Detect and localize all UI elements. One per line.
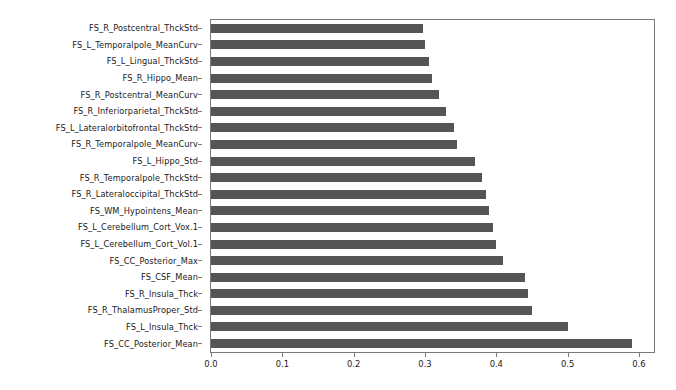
bar (211, 306, 532, 315)
bar-row (211, 236, 655, 253)
y-tick-label-row: FS_R_Postcentral_MeanCurv (0, 86, 204, 103)
bar (211, 57, 429, 66)
y-tick-label: FS_L_Insula_Thck (126, 322, 198, 332)
y-tick-label: FS_L_Lingual_ThckStd (107, 56, 198, 66)
y-tick-label: FS_R_Postcentral_ThckStd (89, 23, 198, 33)
bar-row (211, 37, 655, 54)
bar-row (211, 103, 655, 120)
y-tick-label-row: FS_R_Temporalpole_MeanCurv (0, 136, 204, 153)
bar (211, 90, 439, 99)
y-axis-tick-labels: FS_R_Postcentral_ThckStdFS_L_Temporalpol… (0, 20, 204, 352)
y-tick-mark (198, 194, 202, 195)
bar-chart-figure: FS_R_Postcentral_ThckStdFS_L_Temporalpol… (0, 0, 676, 390)
y-tick-mark (198, 343, 202, 344)
bar-row (211, 86, 655, 103)
x-tick-label: 0.0 (204, 359, 217, 369)
bar (211, 74, 432, 83)
bar-row (211, 70, 655, 87)
bar (211, 256, 503, 265)
y-tick-mark (198, 293, 202, 294)
y-tick-mark (198, 210, 202, 211)
y-tick-mark (198, 326, 202, 327)
bar-row (211, 252, 655, 269)
y-tick-label-row: FS_L_Lateralorbitofrontal_ThckStd (0, 120, 204, 137)
bar-row (211, 335, 655, 352)
y-tick-label-row: FS_R_Postcentral_ThckStd (0, 20, 204, 37)
bar (211, 123, 454, 132)
x-tick-mark (282, 353, 283, 357)
bar-row (211, 269, 655, 286)
y-tick-label-row: FS_R_ThalamusProper_Std (0, 302, 204, 319)
y-tick-mark (198, 28, 202, 29)
y-tick-mark (198, 61, 202, 62)
y-tick-label-row: FS_R_Hippo_Mean (0, 70, 204, 87)
y-tick-label-row: FS_L_Temporalpole_MeanCurv (0, 37, 204, 54)
y-tick-label-row: FS_R_Lateraloccipital_ThckStd (0, 186, 204, 203)
bar-row (211, 53, 655, 70)
y-tick-label-row: FS_L_Hippo_Std (0, 153, 204, 170)
y-tick-mark (198, 161, 202, 162)
y-tick-mark (198, 94, 202, 95)
bar (211, 206, 489, 215)
y-tick-label: FS_L_Cerebellum_Cort_Vox.1 (78, 222, 198, 232)
bar (211, 322, 568, 331)
y-tick-mark (198, 277, 202, 278)
x-tick-label: 0.2 (347, 359, 360, 369)
x-tick-mark (425, 353, 426, 357)
bar (211, 173, 482, 182)
y-tick-label: FS_R_Inferiorparietal_ThckStd (73, 106, 198, 116)
y-tick-label-row: FS_L_Lingual_ThckStd (0, 53, 204, 70)
bar-row (211, 319, 655, 336)
y-tick-mark (198, 127, 202, 128)
bar-row (211, 153, 655, 170)
x-tick-label: 0.1 (276, 359, 289, 369)
bar-row (211, 302, 655, 319)
bar (211, 289, 528, 298)
y-tick-label-row: FS_WM_Hypointens_Mean (0, 203, 204, 220)
y-tick-label: FS_R_Postcentral_MeanCurv (81, 90, 198, 100)
y-tick-label-row: FS_CSF_Mean (0, 269, 204, 286)
bar-row (211, 203, 655, 220)
y-tick-mark (198, 78, 202, 79)
bar-row (211, 136, 655, 153)
y-tick-label-row: FS_L_Insula_Thck (0, 319, 204, 336)
x-axis-ticks: 0.00.10.20.30.40.50.6 (210, 353, 655, 383)
bar-row (211, 169, 655, 186)
y-tick-label: FS_L_Temporalpole_MeanCurv (72, 40, 198, 50)
bar (211, 40, 425, 49)
bar (211, 273, 525, 282)
y-tick-label-row: FS_R_Insula_Thck (0, 286, 204, 303)
bar (211, 240, 496, 249)
bar (211, 190, 486, 199)
bar-series (211, 20, 655, 352)
y-tick-label: FS_L_Cerebellum_Cort_Vol.1 (80, 239, 198, 249)
x-tick-mark (496, 353, 497, 357)
x-tick-mark (211, 353, 212, 357)
bar (211, 339, 632, 348)
bar-row (211, 219, 655, 236)
y-tick-label-row: FS_R_Inferiorparietal_ThckStd (0, 103, 204, 120)
y-tick-label-row: FS_R_Temporalpole_ThckStd (0, 169, 204, 186)
y-tick-label: FS_R_ThalamusProper_Std (88, 305, 198, 315)
y-tick-label: FS_CC_Posterior_Max (110, 256, 199, 266)
y-tick-label-row: FS_L_Cerebellum_Cort_Vox.1 (0, 219, 204, 236)
y-tick-label: FS_R_Temporalpole_ThckStd (80, 173, 198, 183)
x-tick-label: 0.4 (490, 359, 503, 369)
x-tick-mark (568, 353, 569, 357)
y-tick-label-row: FS_CC_Posterior_Max (0, 252, 204, 269)
bar-row (211, 186, 655, 203)
x-tick-label: 0.5 (561, 359, 574, 369)
y-tick-mark (198, 111, 202, 112)
y-tick-label: FS_WM_Hypointens_Mean (90, 206, 198, 216)
y-tick-mark (198, 227, 202, 228)
x-tick-mark (354, 353, 355, 357)
y-tick-label: FS_R_Hippo_Mean (123, 73, 198, 83)
y-tick-label: FS_L_Hippo_Std (133, 156, 198, 166)
x-tick-label: 0.6 (632, 359, 645, 369)
y-tick-label: FS_R_Temporalpole_MeanCurv (71, 139, 198, 149)
bar (211, 107, 446, 116)
x-tick-label: 0.3 (418, 359, 431, 369)
y-tick-mark (198, 260, 202, 261)
bar (211, 157, 475, 166)
y-tick-mark (198, 177, 202, 178)
